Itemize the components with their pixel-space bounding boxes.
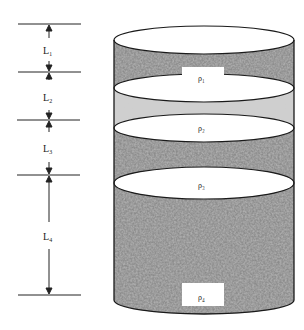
rho-2-label: ρ₂ (198, 124, 205, 133)
rho-3-label: ρ₃ (198, 181, 205, 190)
l3-label: L₃ (43, 143, 53, 154)
l2-label: L₂ (43, 92, 53, 103)
l4-label: L₄ (43, 231, 53, 242)
rho-4-label: ρ₄ (198, 293, 205, 302)
l1-label: L₁ (43, 45, 53, 56)
top-surface-ellipse (114, 26, 294, 54)
rho-1-label: ρ₁ (198, 74, 205, 83)
layered-cylinder-diagram: ρ₁ ρ₂ ρ₃ ρ₄ L₁ L₂ L₃ L₄ (0, 0, 304, 330)
